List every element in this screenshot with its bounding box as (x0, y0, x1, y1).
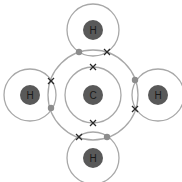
methane-diagram: CHHHH (0, 0, 182, 182)
atom-c: C (48, 50, 138, 140)
atom-label: H (89, 25, 96, 36)
atom-label: C (89, 90, 96, 101)
atom-h-top: H (67, 4, 119, 56)
electron-dot (132, 77, 138, 83)
electron-dot (104, 134, 110, 140)
electron-dot (48, 105, 54, 111)
atom-h-right: H (132, 69, 182, 121)
atom-label: H (89, 153, 96, 164)
electron-dot (76, 49, 82, 55)
atom-label: H (154, 90, 161, 101)
atom-label: H (26, 90, 33, 101)
